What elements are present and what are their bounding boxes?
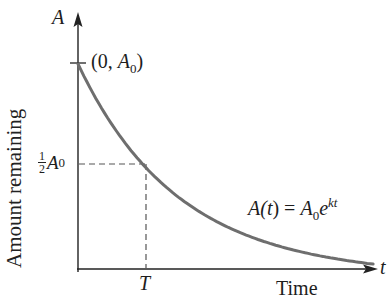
half-a: A xyxy=(47,152,59,174)
half-den: 2 xyxy=(39,163,45,175)
x-axis-title: Time xyxy=(276,277,318,300)
formula-lhs: A( xyxy=(248,197,267,219)
y-axis-symbol: A xyxy=(52,6,64,29)
formula-label: A(t) = A0ekt xyxy=(248,195,337,224)
y-axis-title: Amount remaining xyxy=(2,109,27,268)
initial-point-label: (0, A0) xyxy=(91,50,143,77)
formula-a: A xyxy=(300,197,312,219)
initial-open: (0, xyxy=(91,50,118,72)
half-num: 1 xyxy=(39,150,45,162)
initial-a: A xyxy=(118,50,130,72)
t-half-life-tick-label: T xyxy=(139,272,150,295)
half-a0-label: 1 2 A0 xyxy=(38,150,65,175)
x-axis-symbol: t xyxy=(380,256,386,279)
formula-exp: kt xyxy=(328,195,337,210)
half-sub: 0 xyxy=(59,155,66,171)
half-fraction: 1 2 xyxy=(38,150,46,175)
formula-e: e xyxy=(319,197,328,219)
initial-close: ) xyxy=(136,50,143,72)
formula-eq: ) = xyxy=(272,197,300,219)
